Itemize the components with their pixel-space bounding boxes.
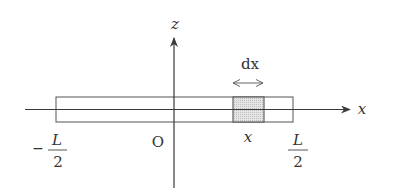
dx-label: dx [241, 55, 260, 73]
left-end-sign: − [32, 140, 44, 156]
svg-text:dx: dx [241, 55, 260, 73]
left-end-label: − L 2 [32, 131, 67, 171]
z-axis-label: z [170, 15, 179, 33]
right-end-numerator: L [292, 131, 303, 149]
element-position-label: x [244, 128, 253, 146]
origin-label: O [152, 133, 164, 151]
diagram-canvas: z x O dx x − L 2 L 2 [0, 0, 394, 195]
dx-label-text: dx [241, 55, 260, 73]
right-end-denominator: 2 [293, 153, 303, 171]
left-end-denominator: 2 [53, 153, 63, 171]
x-axis-label: x [358, 100, 367, 118]
left-end-numerator: L [51, 131, 62, 149]
right-end-label: L 2 [288, 131, 308, 171]
